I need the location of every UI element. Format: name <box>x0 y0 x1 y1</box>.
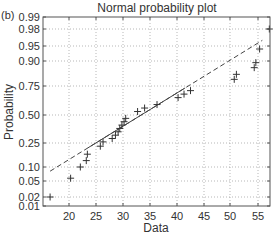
data-point-plus-marker <box>77 164 84 171</box>
data-point-plus-marker <box>256 46 263 53</box>
data-point-plus-marker <box>187 87 194 94</box>
data-point-plus-marker <box>134 108 141 115</box>
x-tick-label: 55 <box>252 210 264 222</box>
panel-label: (b) <box>1 9 14 21</box>
y-tick-label: 0.02 <box>19 191 40 203</box>
plot-frame <box>43 17 270 206</box>
data-point-plus-marker <box>84 151 91 158</box>
data-point-plus-marker <box>141 105 148 112</box>
x-tick-label: 50 <box>224 210 236 222</box>
data-point-plus-marker <box>181 91 188 98</box>
y-tick-label: 0.50 <box>19 109 40 121</box>
y-axis-label: Probability <box>2 84 16 140</box>
y-tick-label: 0.98 <box>19 23 40 35</box>
y-tick-label: 0.99 <box>19 11 40 23</box>
y-tick-label: 0.75 <box>19 80 40 92</box>
y-tick-label: 0.90 <box>19 55 40 67</box>
data-point-plus-marker <box>175 94 182 101</box>
x-tick-label: 20 <box>63 210 75 222</box>
x-tick-label: 25 <box>90 210 102 222</box>
data-point-plus-marker <box>109 135 116 142</box>
x-tick-label: 30 <box>117 210 129 222</box>
data-point-plus-marker <box>266 26 273 33</box>
y-tick-label: 0.25 <box>19 137 40 149</box>
x-axis-ticks: 2025303540455055 <box>63 17 264 222</box>
data-points <box>47 26 273 201</box>
normal-probability-plot: (b) Normal probability plot 0.010.020.05… <box>0 0 276 236</box>
data-point-plus-marker <box>251 64 258 71</box>
data-point-plus-marker <box>83 157 90 164</box>
chart-title: Normal probability plot <box>97 1 217 15</box>
x-tick-label: 45 <box>198 210 210 222</box>
reference-line <box>50 40 262 171</box>
reference-line-solid <box>88 88 185 148</box>
data-point-plus-marker <box>47 194 54 201</box>
y-tick-label: 0.95 <box>19 40 40 52</box>
y-tick-label: 0.10 <box>19 161 40 173</box>
y-tick-label: 0.05 <box>19 175 40 187</box>
data-point-plus-marker <box>122 115 129 122</box>
grid-lines <box>43 17 270 206</box>
x-tick-label: 40 <box>171 210 183 222</box>
x-axis-label: Data <box>143 221 169 235</box>
